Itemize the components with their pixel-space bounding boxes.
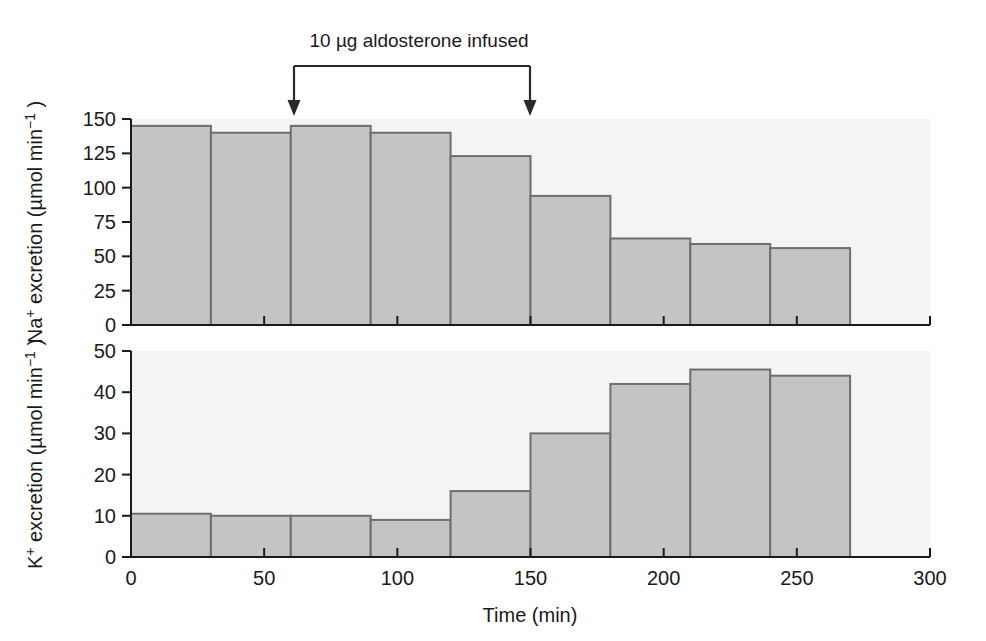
bar — [690, 370, 770, 557]
x-tick-label: 200 — [647, 567, 680, 589]
annotation-label: 10 µg aldosterone infused — [309, 30, 528, 51]
bar — [371, 133, 451, 325]
bar — [610, 384, 690, 557]
x-tick-label: 0 — [125, 567, 136, 589]
x-axis-title: Time (min) — [483, 604, 578, 626]
bar — [211, 133, 291, 325]
bar — [770, 248, 850, 325]
sodium-y-axis-title: Na+ excretion (µmol min−1 ) — [22, 101, 46, 343]
bar — [451, 491, 531, 557]
y-tick-label: 0 — [105, 546, 116, 568]
x-tick-label: 100 — [381, 567, 414, 589]
bar — [531, 196, 611, 325]
bar — [531, 433, 611, 557]
y-tick-label: 50 — [94, 245, 116, 267]
x-tick-label: 300 — [913, 567, 946, 589]
x-tick-label: 150 — [514, 567, 547, 589]
x-tick-label: 50 — [253, 567, 275, 589]
bar — [770, 376, 850, 557]
y-tick-label: 100 — [83, 177, 116, 199]
sodium-chart: 0255075100125150 Na+ excretion (µmol min… — [22, 101, 930, 343]
dual-bar-chart-figure: 10 µg aldosterone infused 02550751001251… — [0, 0, 986, 641]
bar — [371, 520, 451, 557]
figure-container: 10 µg aldosterone infused 02550751001251… — [0, 0, 986, 641]
bar — [211, 516, 291, 557]
bar — [451, 156, 531, 325]
y-tick-label: 20 — [94, 464, 116, 486]
y-tick-label: 150 — [83, 108, 116, 130]
y-tick-label: 30 — [94, 422, 116, 444]
bar — [131, 126, 211, 325]
y-tick-label: 40 — [94, 381, 116, 403]
bar — [291, 126, 371, 325]
bar — [610, 238, 690, 325]
bar — [131, 514, 211, 557]
y-tick-label: 125 — [83, 142, 116, 164]
y-tick-label: 25 — [94, 280, 116, 302]
potassium-y-axis-title: K+ excretion (µmol min−1 ) — [22, 339, 46, 569]
bar — [690, 244, 770, 325]
bar — [291, 516, 371, 557]
y-tick-label: 0 — [105, 314, 116, 336]
y-tick-label: 75 — [94, 211, 116, 233]
x-tick-label: 250 — [780, 567, 813, 589]
y-tick-label: 50 — [94, 340, 116, 362]
y-tick-label: 10 — [94, 505, 116, 527]
